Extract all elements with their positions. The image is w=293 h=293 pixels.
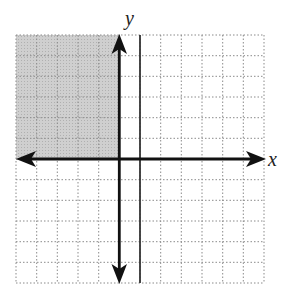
y-axis-label: y [123, 7, 134, 30]
coordinate-plane: x y [0, 0, 293, 293]
x-axis-label: x [267, 148, 277, 170]
